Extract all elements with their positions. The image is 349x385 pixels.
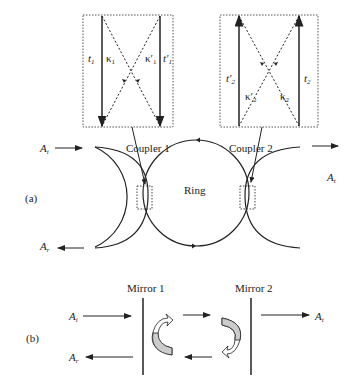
panel-a-label: (a) <box>25 192 38 205</box>
reflect-label-a: Ar <box>39 240 50 254</box>
svg-text:t′2: t′2 <box>226 72 235 86</box>
coupler2-label: Coupler 2 <box>229 142 273 154</box>
transmit-label-a: At <box>326 171 337 185</box>
svg-text:Ai: Ai <box>68 310 78 324</box>
svg-text:(b): (b) <box>26 332 39 345</box>
ring-resonator-diagram: t1 κ1 κ′1 t′1 t′2 κ′2 κ2 t2 Coupler 1 Co… <box>0 0 349 385</box>
svg-text:κ′1: κ′1 <box>145 52 157 66</box>
coupler2-inset: t′2 κ′2 κ2 t2 <box>220 15 318 127</box>
svg-text:κ2: κ2 <box>280 90 290 104</box>
svg-text:κ1: κ1 <box>106 52 116 66</box>
svg-text:t′1: t′1 <box>163 52 172 66</box>
svg-text:Mirror 1: Mirror 1 <box>127 282 165 294</box>
svg-text:Ar: Ar <box>68 351 79 365</box>
ring-label: Ring <box>184 184 206 196</box>
svg-text:At: At <box>314 310 325 324</box>
coupler1-label: Coupler 1 <box>126 142 170 154</box>
svg-text:t1: t1 <box>88 52 95 66</box>
fabry-perot-panel: Mirror 1 Mirror 2 (b) Ai Ar At <box>26 282 325 375</box>
svg-text:κ′2: κ′2 <box>245 90 257 104</box>
coupler1-inset: t1 κ1 κ′1 t′1 <box>83 15 173 127</box>
svg-text:Mirror 2: Mirror 2 <box>235 282 273 294</box>
input-label-a: Ai <box>39 142 49 156</box>
svg-text:t2: t2 <box>304 72 311 86</box>
